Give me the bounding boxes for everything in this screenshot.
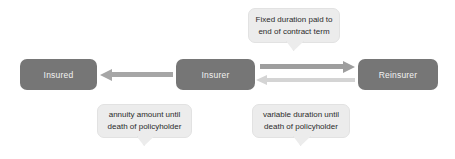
callout-line-1: variable duration until xyxy=(263,110,339,119)
callout-line-2: death of policyholder xyxy=(264,122,338,131)
arrow-head-left-icon xyxy=(256,75,267,85)
arrow-reinsurer-to-insurer xyxy=(256,74,355,85)
callout-tail xyxy=(293,136,311,146)
arrow-shaft xyxy=(266,78,355,82)
arrow-shaft xyxy=(111,72,173,77)
callout-annuity-amount: annuity amount until death of policyhold… xyxy=(97,104,192,138)
callout-line-2: death of policyholder xyxy=(108,122,182,131)
callout-line-2: end of contract term xyxy=(258,27,329,36)
node-reinsurer-label: Reinsurer xyxy=(379,70,418,80)
callout-line-1: annuity amount until xyxy=(109,110,181,119)
callout-line-1: Fixed duration paid to xyxy=(256,15,333,24)
arrow-head-right-icon xyxy=(343,61,355,73)
node-insured-label: Insured xyxy=(44,70,74,80)
callout-variable-duration-text: variable duration until death of policyh… xyxy=(263,109,339,133)
arrow-shaft xyxy=(260,64,344,69)
callout-variable-duration: variable duration until death of policyh… xyxy=(252,104,350,138)
callout-annuity-amount-text: annuity amount until death of policyhold… xyxy=(108,109,182,133)
callout-fixed-duration: Fixed duration paid to end of contract t… xyxy=(248,8,340,43)
node-insured[interactable]: Insured xyxy=(20,59,97,90)
node-insurer-label: Insurer xyxy=(202,70,230,80)
callout-tail xyxy=(137,136,155,146)
arrow-insurer-to-reinsurer xyxy=(260,60,355,73)
arrow-head-left-icon xyxy=(100,69,112,81)
callout-fixed-duration-text: Fixed duration paid to end of contract t… xyxy=(256,14,333,38)
arrow-insurer-to-insured xyxy=(100,68,173,81)
node-reinsurer[interactable]: Reinsurer xyxy=(358,59,438,90)
callout-tail xyxy=(286,41,304,51)
node-insurer[interactable]: Insurer xyxy=(176,59,255,90)
diagram-canvas: Insured Insurer Reinsurer Fixed duration… xyxy=(0,0,455,159)
